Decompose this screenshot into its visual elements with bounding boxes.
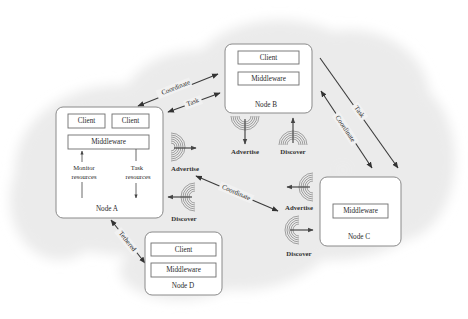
node-b-client[interactable]: Client — [238, 51, 299, 64]
node-b-advertise-label: Advertise — [231, 148, 259, 155]
node-a-label: Node A — [96, 205, 119, 213]
node-c-label: Node C — [348, 233, 370, 241]
svg-text:Middleware: Middleware — [91, 138, 126, 146]
node-b-discover-label: Discover — [280, 148, 305, 155]
node-c[interactable]: Middleware Node C — [320, 177, 401, 246]
node-c-advertise-label: Advertise — [285, 204, 313, 211]
svg-text:resources: resources — [126, 173, 151, 180]
node-a-discover-label: Discover — [171, 215, 196, 222]
svg-text:Middleware: Middleware — [343, 207, 378, 215]
monitor-resources-label: Monitor — [73, 164, 95, 171]
node-a-advertise-label: Advertise — [171, 165, 199, 172]
node-a-middleware[interactable]: Middleware — [68, 135, 149, 149]
svg-text:Client: Client — [260, 54, 278, 62]
node-c-discover-label: Discover — [286, 250, 311, 257]
node-c-middleware[interactable]: Middleware — [333, 204, 388, 218]
node-b-middleware[interactable]: Middleware — [238, 72, 299, 85]
diagram-canvas: Coordinate Task Task Coordinate Coordina… — [0, 0, 468, 319]
node-d-middleware[interactable]: Middleware — [151, 263, 216, 277]
task-resources-label: Task — [131, 164, 144, 171]
node-a-client-1[interactable]: Client — [68, 114, 105, 128]
svg-text:resources: resources — [72, 173, 97, 180]
node-d-client[interactable]: Client — [151, 243, 216, 256]
node-b-label: Node B — [255, 101, 277, 109]
node-d[interactable]: Client Middleware Node D — [145, 232, 222, 295]
node-a[interactable]: Client Client Middleware Monitor resourc… — [56, 107, 163, 218]
svg-text:Client: Client — [175, 246, 193, 254]
node-a-client-2[interactable]: Client — [112, 114, 149, 128]
node-b[interactable]: Client Middleware Node B — [225, 44, 312, 113]
svg-text:Client: Client — [78, 117, 96, 125]
svg-text:Middleware: Middleware — [251, 75, 286, 83]
svg-text:Client: Client — [122, 117, 140, 125]
svg-text:Middleware: Middleware — [166, 266, 201, 274]
node-d-label: Node D — [172, 282, 195, 290]
